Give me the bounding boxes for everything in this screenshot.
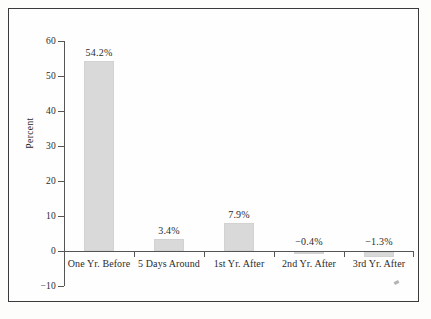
x-tick-2 bbox=[204, 251, 205, 257]
x-category-label-1st-yr-after: 1st Yr. After bbox=[214, 258, 265, 269]
y-tick-mark bbox=[58, 286, 64, 287]
x-tick-4 bbox=[344, 251, 345, 257]
y-tick-label: −10 bbox=[41, 281, 56, 291]
x-category-label-one-yr-before: One Yr. Before bbox=[68, 258, 130, 269]
bar-one-yr-before[interactable] bbox=[84, 61, 114, 251]
x-tick-1 bbox=[134, 251, 135, 257]
x-category-label-5-days-around: 5 Days Around bbox=[138, 258, 200, 269]
plot-area: 60 50 40 30 20 10 bbox=[64, 41, 414, 286]
y-tick-label: 30 bbox=[46, 141, 56, 151]
bar-3rd-yr-after[interactable] bbox=[364, 252, 394, 257]
bar-value-label-1st-yr-after: 7.9% bbox=[228, 209, 250, 220]
bar-2nd-yr-after[interactable] bbox=[294, 252, 324, 254]
figure: Percent 60 50 40 30 20 bbox=[0, 0, 431, 319]
y-axis-title: Percent bbox=[25, 117, 35, 148]
y-tick-mark bbox=[58, 111, 64, 112]
x-category-label-2nd-yr-after: 2nd Yr. After bbox=[282, 258, 336, 269]
y-tick-mark bbox=[58, 41, 64, 42]
y-tick-mark bbox=[58, 216, 64, 217]
y-tick-label: 40 bbox=[46, 106, 56, 116]
y-tick-mark bbox=[58, 181, 64, 182]
x-tick-5 bbox=[413, 251, 414, 257]
y-tick-label: 50 bbox=[46, 71, 56, 81]
x-tick-0 bbox=[64, 251, 65, 257]
y-tick-label: 10 bbox=[46, 211, 56, 221]
bar-value-label-5-days-around: 3.4% bbox=[158, 225, 180, 236]
figure-border-frame: Percent 60 50 40 30 20 bbox=[8, 8, 419, 302]
x-category-label-3rd-yr-after: 3rd Yr. After bbox=[353, 258, 405, 269]
x-axis-spine bbox=[64, 251, 414, 252]
bar-value-label-3rd-yr-after: −1.3% bbox=[365, 236, 392, 247]
bar-value-label-one-yr-before: 54.2% bbox=[86, 47, 113, 58]
bar-1st-yr-after[interactable] bbox=[224, 223, 254, 251]
y-axis-spine bbox=[64, 41, 65, 286]
bar-5-days-around[interactable] bbox=[154, 239, 184, 251]
y-tick-mark bbox=[58, 146, 64, 147]
bar-value-label-2nd-yr-after: −0.4% bbox=[295, 236, 322, 247]
y-tick-mark bbox=[58, 76, 64, 77]
y-tick-label: 20 bbox=[46, 176, 56, 186]
x-tick-3 bbox=[274, 251, 275, 257]
y-tick-label: 0 bbox=[51, 246, 56, 256]
y-tick-label: 60 bbox=[46, 36, 56, 46]
